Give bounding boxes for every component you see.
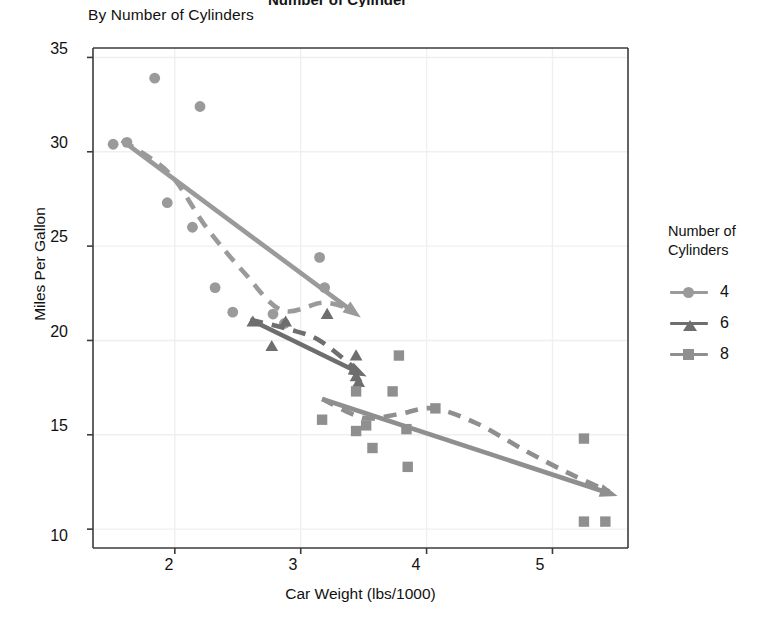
fit-curve-6 <box>250 320 357 371</box>
data-point <box>579 433 589 443</box>
data-point <box>187 222 198 233</box>
legend-key-square-icon <box>668 345 710 363</box>
data-point <box>367 443 377 453</box>
x-tick-3: 3 <box>273 556 313 574</box>
data-point <box>579 516 589 526</box>
data-point <box>352 376 365 387</box>
y-tick-10: 10 <box>24 527 68 545</box>
scatter-chart: Number of Cylinders By Number of Cylinde… <box>0 0 776 631</box>
data-point <box>265 340 278 351</box>
trend-line-6 <box>250 320 358 373</box>
data-point <box>227 307 238 318</box>
data-point <box>401 424 411 434</box>
plot-area <box>0 0 776 631</box>
data-point <box>162 197 173 208</box>
data-point <box>268 309 279 320</box>
data-point <box>122 137 133 148</box>
data-point <box>321 308 334 319</box>
legend-item-6[interactable]: 6 <box>668 307 774 338</box>
fit-curve-8 <box>322 399 609 491</box>
data-point <box>319 282 330 293</box>
legend-title-line1: Number of <box>668 222 774 241</box>
y-tick-30: 30 <box>24 134 68 152</box>
legend-items: 468 <box>668 276 774 369</box>
data-point <box>600 516 610 526</box>
grid-lines <box>93 48 628 548</box>
data-point <box>394 350 404 360</box>
legend: Number of Cylinders 468 <box>668 222 774 369</box>
data-point <box>350 370 363 381</box>
y-tick-25: 25 <box>24 228 68 246</box>
legend-title: Number of Cylinders <box>668 222 774 260</box>
data-point <box>279 315 292 326</box>
fit-curve-4 <box>122 140 354 311</box>
legend-key-circle-icon <box>668 283 710 301</box>
trend-arrow-6 <box>348 363 367 377</box>
data-point <box>246 315 259 326</box>
legend-title-line2: Cylinders <box>668 241 774 260</box>
data-point <box>195 101 206 112</box>
series-8 <box>317 350 618 526</box>
data-point <box>387 386 397 396</box>
y-tick-20: 20 <box>24 323 68 341</box>
x-tick-2: 2 <box>149 556 189 574</box>
data-point <box>361 420 371 430</box>
y-tick-15: 15 <box>24 417 68 435</box>
series-4 <box>108 73 361 329</box>
data-point <box>108 139 119 150</box>
data-point <box>351 386 361 396</box>
trend-line-4 <box>122 140 354 312</box>
x-axis-label: Car Weight (lbs/1000) <box>93 585 628 603</box>
trend-line-8 <box>322 399 609 493</box>
legend-item-8[interactable]: 8 <box>668 338 774 369</box>
trend-arrow-8 <box>599 484 618 497</box>
legend-label-8: 8 <box>720 345 729 363</box>
x-tick-4: 4 <box>396 556 436 574</box>
data-series-layer <box>108 73 618 527</box>
legend-label-4: 4 <box>720 283 729 301</box>
data-point <box>317 414 327 424</box>
chart-title-clipped: Number of Cylinders <box>268 0 408 7</box>
x-tick-5: 5 <box>520 556 560 574</box>
legend-item-4[interactable]: 4 <box>668 276 774 307</box>
chart-subtitle: By Number of Cylinders <box>88 6 254 24</box>
data-point <box>279 318 290 329</box>
data-point <box>149 73 160 84</box>
data-point <box>403 462 413 472</box>
data-point <box>430 403 440 413</box>
data-point <box>210 282 221 293</box>
data-point <box>350 349 363 360</box>
legend-label-6: 6 <box>720 314 729 332</box>
data-point <box>351 426 361 436</box>
trend-arrow-4 <box>343 302 361 318</box>
axis-frame <box>87 48 628 554</box>
series-6 <box>246 308 366 387</box>
data-point <box>314 252 325 263</box>
legend-key-triangle-icon <box>668 314 710 332</box>
y-tick-35: 35 <box>24 40 68 58</box>
